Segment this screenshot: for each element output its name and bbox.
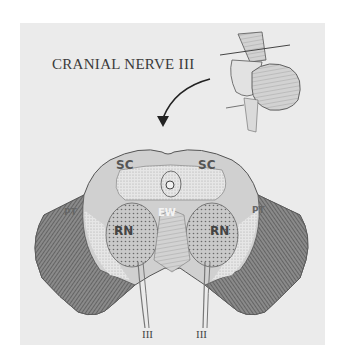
label-sc-left: SC — [116, 158, 134, 172]
brainstem-sketch — [220, 32, 300, 132]
label-sc-right: SC — [198, 158, 216, 172]
label-rn-right: RN — [210, 224, 229, 238]
label-nerve-right: III — [196, 328, 207, 340]
curved-arrow-icon — [157, 79, 210, 127]
label-nerve-left: III — [142, 328, 153, 340]
label-pt-left: PT — [64, 207, 78, 217]
label-pt-right: PT — [252, 205, 266, 215]
label-rn-left: RN — [114, 224, 133, 238]
midbrain-cross-section — [35, 150, 308, 328]
midbrain-illustration: SC SC EW RN RN PT PT III III — [0, 0, 338, 359]
label-ew: EW — [158, 207, 176, 218]
